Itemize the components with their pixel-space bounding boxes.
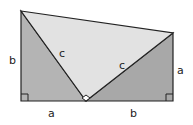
trapezoid-diagram: b c c a a b bbox=[0, 0, 193, 125]
label-bottom-left: a bbox=[48, 107, 55, 120]
label-right-hypotenuse: c bbox=[119, 59, 125, 72]
diagram-canvas: b c c a a b bbox=[0, 0, 193, 125]
label-left-hypotenuse: c bbox=[59, 47, 65, 60]
label-right-side: a bbox=[177, 64, 184, 77]
label-bottom-right: b bbox=[130, 107, 137, 120]
label-left-side: b bbox=[9, 54, 16, 67]
